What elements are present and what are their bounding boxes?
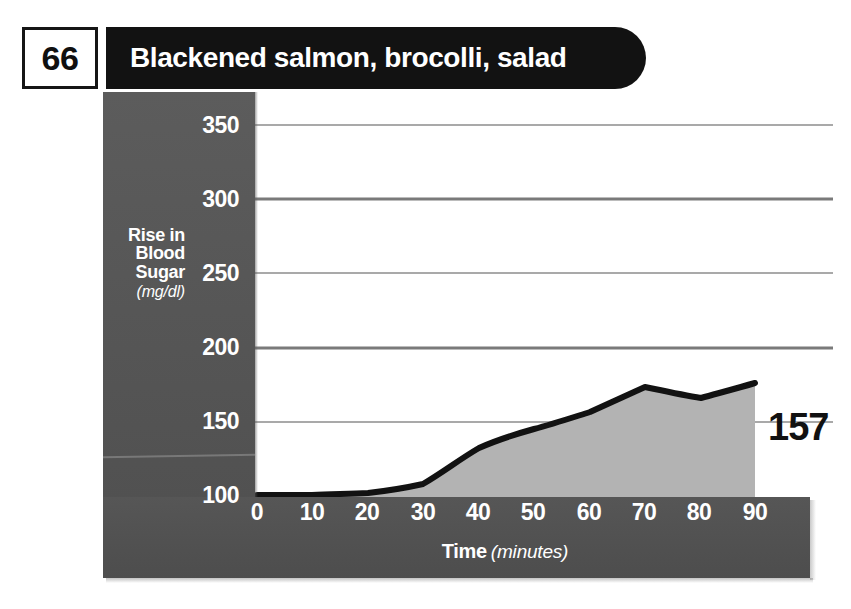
- x-tick-60: 60: [567, 501, 611, 524]
- panel-drop-shadow-bottom: [106, 578, 813, 583]
- plot-area: [255, 92, 850, 497]
- y-tick-200: 200: [103, 336, 255, 359]
- panel-drop-shadow-right: [810, 500, 816, 580]
- plot-left-edge-shadow: [255, 92, 258, 497]
- x-tick-10: 10: [290, 501, 334, 524]
- y-tick-150: 150: [103, 410, 255, 433]
- y-tick-300: 300: [103, 188, 255, 211]
- x-tick-40: 40: [456, 501, 500, 524]
- y-tick-100: 100: [103, 484, 255, 507]
- x-tick-90: 90: [733, 501, 777, 524]
- x-axis-title-label: Time: [442, 540, 487, 562]
- data-series: [257, 383, 755, 497]
- chart-svg: [255, 92, 850, 497]
- chart-number: 66: [42, 41, 79, 75]
- title-banner: Blackened salmon, brocolli, salad: [106, 27, 646, 89]
- x-tick-0: 0: [235, 501, 279, 524]
- x-tick-80: 80: [677, 501, 721, 524]
- y-axis-unit: (mg/dl): [103, 284, 185, 300]
- x-tick-50: 50: [511, 501, 555, 524]
- chart-page: 66 Blackened salmon, brocolli, salad 350…: [0, 0, 851, 609]
- page-title: Blackened salmon, brocolli, salad: [106, 42, 567, 74]
- y-axis-title: Rise in Blood Sugar (mg/dl): [103, 226, 255, 300]
- x-tick-20: 20: [345, 501, 389, 524]
- x-axis-title: Time(minutes): [255, 541, 755, 561]
- y-tick-350: 350: [103, 114, 255, 137]
- gridlines: [255, 125, 833, 422]
- y-axis-title-line-1: Rise in: [103, 226, 185, 244]
- x-tick-70: 70: [622, 501, 666, 524]
- x-axis-unit: (minutes): [491, 541, 568, 562]
- y-axis-title-line-2: Blood: [103, 244, 185, 262]
- y-axis-title-line-3: Sugar: [103, 263, 185, 281]
- chart-number-box: 66: [22, 27, 98, 89]
- end-value-label: 157: [768, 408, 828, 446]
- x-tick-30: 30: [401, 501, 445, 524]
